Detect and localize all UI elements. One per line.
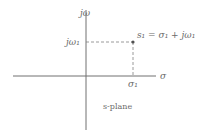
point-s1 (131, 40, 134, 43)
s-plane-diagram: jω σ jω₁ s₁ = σ₁ + jω₁ σ₁ s-plane (0, 0, 203, 137)
j-omega-axis-label: jω (78, 8, 91, 18)
sigma-axis-label: σ (160, 71, 167, 81)
s1-equation-label: s₁ = σ₁ + jω₁ (137, 30, 195, 40)
sigma1-label: σ₁ (128, 79, 138, 89)
s-plane-label: s-plane (103, 102, 132, 111)
j-omega1-label: jω₁ (64, 37, 80, 47)
